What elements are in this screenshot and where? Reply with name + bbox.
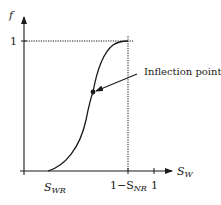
x-tick-label-snr: 1−SNR <box>110 179 147 193</box>
annotation-arrow <box>96 74 137 91</box>
x-tick-label-one: 1 <box>151 179 158 192</box>
fractional-flow-diagram: f 1 Inflection point SWR 1−SNR 1 SW <box>0 0 221 205</box>
x-axis-label: SW <box>177 165 194 179</box>
x-tick-label-swr: SWR <box>44 181 66 195</box>
x-tick-label-snr-prefix: 1−S <box>110 179 134 192</box>
x-axis-label-sub: W <box>185 170 194 179</box>
x-tick-label-swr-sub: WR <box>52 186 66 195</box>
fractional-flow-curve <box>48 41 128 171</box>
x-tick-label-snr-sub: NR <box>133 184 147 193</box>
y-tick-label-one: 1 <box>10 35 17 48</box>
annotation-label: Inflection point <box>144 66 221 77</box>
inflection-point-marker <box>91 90 96 95</box>
y-axis-label: f <box>8 9 15 22</box>
